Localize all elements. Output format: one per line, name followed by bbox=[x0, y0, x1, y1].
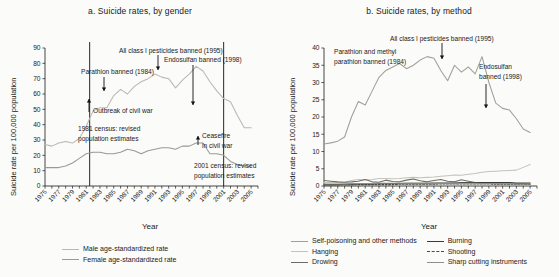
panel-b-legend: Self-poisoning and other methodsHangingD… bbox=[291, 237, 527, 269]
legend-item: Sharp cutting instruments bbox=[427, 258, 527, 266]
svg-text:1979: 1979 bbox=[339, 188, 354, 203]
svg-text:1999: 1999 bbox=[477, 188, 492, 203]
legend-item: Hanging bbox=[291, 248, 417, 256]
svg-text:0: 0 bbox=[316, 182, 320, 189]
legend-swatch bbox=[62, 259, 79, 260]
svg-text:1981: 1981 bbox=[74, 188, 89, 203]
svg-text:1977: 1977 bbox=[326, 188, 341, 203]
legend-item: Shooting bbox=[427, 248, 527, 256]
legend-label: Burning bbox=[448, 237, 472, 245]
svg-text:1997: 1997 bbox=[184, 188, 199, 203]
svg-text:1989: 1989 bbox=[408, 188, 423, 203]
legend-item: Self-poisoning and other methods bbox=[291, 237, 417, 245]
svg-text:1975: 1975 bbox=[33, 188, 48, 203]
legend-item: Burning bbox=[427, 237, 527, 245]
panel-a-plot-area: 0102030405060708090197519771979198119831… bbox=[0, 0, 280, 277]
svg-text:2003: 2003 bbox=[504, 188, 519, 203]
svg-text:1991: 1991 bbox=[143, 188, 158, 203]
legend-label: Self-poisoning and other methods bbox=[312, 237, 417, 245]
svg-text:1985: 1985 bbox=[381, 188, 396, 203]
svg-text:15: 15 bbox=[312, 131, 320, 138]
svg-text:10: 10 bbox=[33, 167, 41, 174]
legend-swatch bbox=[291, 262, 308, 263]
svg-text:1989: 1989 bbox=[129, 188, 144, 203]
svg-text:2005: 2005 bbox=[239, 188, 254, 203]
legend-swatch bbox=[291, 251, 308, 252]
legend-swatch bbox=[427, 241, 444, 242]
legend-swatch bbox=[62, 249, 79, 250]
svg-text:70: 70 bbox=[33, 75, 41, 82]
svg-text:All class I pesticides banned: All class I pesticides banned (1995) bbox=[390, 35, 494, 43]
svg-text:1983: 1983 bbox=[367, 188, 382, 203]
svg-text:Endosulfan: Endosulfan bbox=[479, 63, 512, 70]
svg-text:1981: 1981 bbox=[353, 188, 368, 203]
svg-text:1993: 1993 bbox=[436, 188, 451, 203]
svg-text:20: 20 bbox=[312, 113, 320, 120]
legend-swatch bbox=[291, 241, 308, 242]
svg-text:1983: 1983 bbox=[88, 188, 103, 203]
panel-b-plot-area: 0510152025303540197519771979198119831985… bbox=[279, 0, 559, 277]
svg-text:30: 30 bbox=[33, 136, 41, 143]
svg-text:35: 35 bbox=[312, 62, 320, 69]
svg-text:1981 census: revised: 1981 census: revised bbox=[78, 125, 141, 132]
svg-text:1987: 1987 bbox=[115, 188, 130, 203]
panel-a-legend: Male age-standardized rateFemale age-sta… bbox=[62, 245, 176, 266]
svg-text:Ceasefire: Ceasefire bbox=[202, 132, 231, 139]
svg-text:Endosulfan banned (1998): Endosulfan banned (1998) bbox=[164, 56, 242, 64]
legend-item: Female age-standardized rate bbox=[62, 256, 176, 264]
panel-a-suicide-rates-by-gender: a. Suicide rates, by gender Suicide rate… bbox=[0, 0, 280, 277]
legend-label: Hanging bbox=[312, 248, 338, 256]
svg-text:2003: 2003 bbox=[225, 188, 240, 203]
svg-text:2001: 2001 bbox=[491, 188, 506, 203]
svg-text:population estimates: population estimates bbox=[194, 172, 255, 180]
svg-text:Parathion banned (1984): Parathion banned (1984) bbox=[81, 68, 154, 76]
svg-text:25: 25 bbox=[312, 96, 320, 103]
legend-label: Shooting bbox=[448, 248, 476, 256]
svg-text:30: 30 bbox=[312, 79, 320, 86]
svg-text:1975: 1975 bbox=[312, 188, 327, 203]
legend-item: Drowing bbox=[291, 258, 417, 266]
legend-label: Sharp cutting instruments bbox=[448, 258, 527, 266]
svg-text:Parathion and methyl: Parathion and methyl bbox=[334, 48, 397, 56]
svg-text:40: 40 bbox=[312, 44, 320, 51]
legend-label: Female age-standardized rate bbox=[83, 256, 176, 264]
svg-text:1985: 1985 bbox=[102, 188, 117, 203]
svg-text:5: 5 bbox=[316, 165, 320, 172]
svg-text:1995: 1995 bbox=[449, 188, 464, 203]
panel-a-x-axis-label: Year bbox=[40, 222, 260, 231]
legend-swatch bbox=[427, 251, 444, 252]
svg-text:population estimates: population estimates bbox=[78, 135, 139, 143]
svg-text:1993: 1993 bbox=[157, 188, 172, 203]
legend-label: Male age-standardized rate bbox=[83, 245, 168, 253]
svg-text:1997: 1997 bbox=[463, 188, 478, 203]
svg-text:1987: 1987 bbox=[394, 188, 409, 203]
svg-text:All class I pesticides banned: All class I pesticides banned (1995) bbox=[119, 47, 223, 55]
legend-item: Male age-standardized rate bbox=[62, 245, 176, 253]
svg-text:2001: 2001 bbox=[212, 188, 227, 203]
legend-label: Drowing bbox=[312, 258, 338, 266]
svg-text:in civil war: in civil war bbox=[202, 142, 233, 149]
svg-text:1977: 1977 bbox=[47, 188, 62, 203]
panel-b-x-axis-label: Year bbox=[319, 222, 539, 231]
svg-text:1999: 1999 bbox=[198, 188, 213, 203]
svg-text:1995: 1995 bbox=[170, 188, 185, 203]
svg-text:banned (1998): banned (1998) bbox=[479, 73, 522, 81]
svg-text:1979: 1979 bbox=[60, 188, 75, 203]
legend-swatch bbox=[427, 262, 444, 263]
svg-text:parathion banned (1984): parathion banned (1984) bbox=[334, 58, 406, 66]
svg-text:50: 50 bbox=[33, 106, 41, 113]
svg-text:60: 60 bbox=[33, 90, 41, 97]
svg-text:1991: 1991 bbox=[422, 188, 437, 203]
svg-text:10: 10 bbox=[312, 148, 320, 155]
svg-text:40: 40 bbox=[33, 121, 41, 128]
svg-text:Outbreak of civil war: Outbreak of civil war bbox=[93, 107, 154, 114]
svg-text:2005: 2005 bbox=[518, 188, 533, 203]
panel-b-suicide-rates-by-method: b. Suicide rates, by method Suicide rate… bbox=[279, 0, 559, 277]
svg-text:20: 20 bbox=[33, 152, 41, 159]
svg-text:2001 census: revised: 2001 census: revised bbox=[194, 162, 257, 169]
svg-text:80: 80 bbox=[33, 60, 41, 67]
svg-text:0: 0 bbox=[37, 182, 41, 189]
svg-text:90: 90 bbox=[33, 44, 41, 51]
